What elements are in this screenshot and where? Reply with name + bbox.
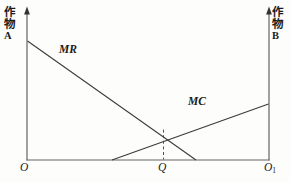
- origin-label-right: O1: [264, 161, 276, 173]
- mc-curve: [112, 104, 269, 160]
- left-axis: [24, 7, 30, 161]
- left-axis-arrow-icon: [24, 7, 30, 15]
- mr-curve-label: MR: [59, 43, 77, 55]
- quantity-label: Q: [158, 161, 166, 173]
- origin-label-left: O: [20, 161, 28, 173]
- economics-diagram-figure: 作 物 A 作 物 B MR MC O Q O1: [0, 0, 291, 182]
- mc-curve-label: MC: [188, 95, 206, 107]
- diagram-canvas: [0, 0, 291, 182]
- right-axis-label-char2: 物: [272, 19, 283, 31]
- right-axis-label: 作 物 B: [272, 7, 283, 42]
- right-axis-label-char3: B: [272, 31, 279, 42]
- left-axis-label-char3: A: [4, 31, 12, 42]
- left-axis-label: 作 物 A: [4, 7, 15, 42]
- mr-curve: [28, 41, 197, 160]
- origin-right-subscript: 1: [272, 166, 276, 175]
- left-axis-label-char2: 物: [4, 19, 15, 31]
